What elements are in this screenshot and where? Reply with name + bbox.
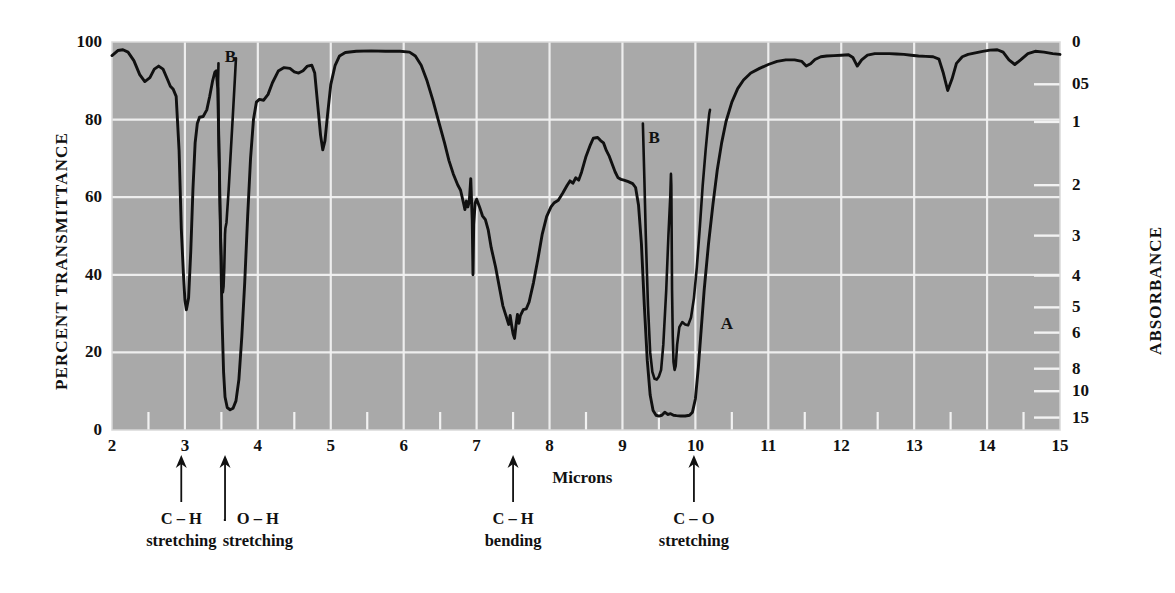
- x-tick-2: 2: [108, 436, 117, 456]
- annotation-oh-stretching: O – Hstretching: [223, 508, 293, 552]
- absorbance-tick-6: 6: [1072, 323, 1081, 343]
- absorbance-tick-10: 10: [1072, 381, 1089, 401]
- x-tick-14: 14: [979, 436, 996, 456]
- annotation-oh-stretching-line-0: O – H: [223, 508, 293, 530]
- x-tick-7: 7: [472, 436, 481, 456]
- annotation-co-stretching-line-1: stretching: [659, 530, 729, 552]
- absorbance-tick-4: 4: [1072, 266, 1081, 286]
- y-tick-20: 20: [85, 342, 102, 362]
- annotation-oh-stretching-line-1: stretching: [223, 530, 293, 552]
- curve-label-B-ch-stretch: B: [225, 47, 236, 67]
- ir-spectrum-figure: PERCENT TRANSMITTANCE ABSORBANCE Microns…: [0, 0, 1175, 593]
- y-tick-100: 100: [77, 32, 103, 52]
- annotation-co-stretching-line-0: C – O: [659, 508, 729, 530]
- annotation-ch-bending-line-1: bending: [485, 530, 542, 552]
- curve-label-B-co-stretch: B: [649, 128, 660, 148]
- x-tick-9: 9: [618, 436, 627, 456]
- x-tick-11: 11: [760, 436, 776, 456]
- x-tick-13: 13: [906, 436, 923, 456]
- annotation-ch-stretching-line-0: C – H: [146, 508, 216, 530]
- x-tick-12: 12: [833, 436, 850, 456]
- y-tick-60: 60: [85, 187, 102, 207]
- annotation-ch-stretching: C – Hstretching: [146, 508, 216, 552]
- spectrum-plot: [0, 0, 1175, 593]
- y-tick-40: 40: [85, 265, 102, 285]
- plot-background: [112, 42, 1060, 430]
- x-tick-10: 10: [687, 436, 704, 456]
- absorbance-tick-2: 2: [1072, 175, 1081, 195]
- absorbance-tick-5: 5: [1072, 297, 1081, 317]
- x-tick-6: 6: [399, 436, 408, 456]
- annotation-co-stretching: C – Ostretching: [659, 508, 729, 552]
- annotation-ch-bending-line-0: C – H: [485, 508, 542, 530]
- x-tick-3: 3: [181, 436, 190, 456]
- absorbance-tick-3: 3: [1072, 226, 1081, 246]
- annotation-ch-stretching-line-1: stretching: [146, 530, 216, 552]
- absorbance-tick-05: 05: [1072, 74, 1089, 94]
- absorbance-tick-0: 0: [1072, 32, 1081, 52]
- x-tick-4: 4: [254, 436, 263, 456]
- curve-label-A: A: [721, 314, 733, 334]
- x-tick-15: 15: [1052, 436, 1069, 456]
- absorbance-tick-15: 15: [1072, 408, 1089, 428]
- x-tick-5: 5: [327, 436, 336, 456]
- absorbance-tick-1: 1: [1072, 112, 1081, 132]
- y-tick-0: 0: [94, 420, 103, 440]
- annotation-ch-bending: C – Hbending: [485, 508, 542, 552]
- absorbance-tick-8: 8: [1072, 359, 1081, 379]
- y-tick-80: 80: [85, 110, 102, 130]
- x-tick-8: 8: [545, 436, 554, 456]
